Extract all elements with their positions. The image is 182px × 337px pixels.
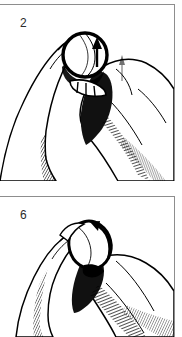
left-hand-shading	[41, 133, 56, 181]
right-hand-group	[80, 60, 174, 181]
panel-2: 2	[0, 4, 175, 183]
panel-gap	[0, 181, 182, 196]
panel-6-artwork	[0, 197, 174, 337]
panel-2-artwork	[0, 5, 174, 182]
panel-6: 6	[0, 196, 175, 337]
